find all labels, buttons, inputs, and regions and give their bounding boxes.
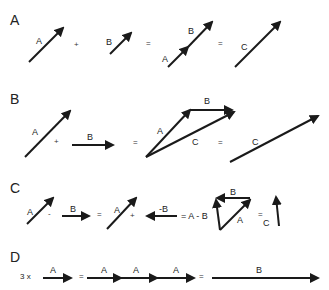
multiplier-label: 3 x — [20, 273, 31, 281]
label-b: B — [188, 27, 194, 36]
equals-operator: = — [258, 211, 263, 219]
label-a: A — [133, 266, 139, 275]
equals-operator: = — [199, 273, 204, 281]
label-b: B — [106, 38, 112, 47]
vector-a-arrow — [29, 28, 63, 62]
sum-a-arrow — [168, 47, 188, 67]
label-a: A — [237, 216, 243, 225]
equals-operator: = — [133, 139, 138, 147]
result-c-arrow — [230, 116, 318, 162]
label-a-minus-b: = A - B — [181, 212, 208, 221]
label-b: B — [256, 266, 262, 275]
equals-operator: = — [218, 139, 223, 147]
vector-b-arrow — [110, 33, 131, 54]
label-b: B — [230, 188, 236, 197]
label-a: A — [173, 266, 179, 275]
triangle-c-arrow — [216, 200, 220, 230]
section-title-b: B — [10, 92, 19, 106]
label-a: A — [50, 266, 56, 275]
plus-operator: + — [130, 212, 135, 220]
label-a: A — [36, 37, 42, 46]
section-title-d: D — [10, 250, 20, 264]
equals-operator: = — [79, 273, 84, 281]
label-a: A — [27, 208, 33, 217]
label-b: B — [70, 205, 76, 214]
label-a: A — [101, 266, 107, 275]
label-a: A — [114, 206, 120, 215]
label-c: C — [263, 219, 270, 228]
triangle-a-arrow — [220, 200, 250, 230]
result-c-arrow — [276, 197, 279, 226]
label-c: C — [192, 138, 199, 147]
plus-operator: + — [74, 41, 79, 49]
equals-operator: = — [218, 40, 223, 48]
equals-operator: = — [146, 40, 151, 48]
label-c: C — [241, 43, 248, 52]
label-c: C — [252, 138, 259, 147]
triangle-a-arrow — [146, 110, 190, 157]
label-b: B — [87, 133, 93, 142]
label-a: A — [157, 127, 163, 136]
label-a: A — [162, 55, 168, 64]
arrows-canvas — [0, 0, 329, 290]
label-a: A — [32, 128, 38, 137]
label-b: B — [204, 97, 210, 106]
label-negative-b: -B — [159, 205, 168, 214]
section-title-c: C — [10, 181, 20, 195]
minus-operator: - — [48, 210, 51, 218]
vector-addition-diagram: A B C D A + B = B A = C A + B = B A C = … — [0, 0, 329, 290]
equals-operator: = — [97, 211, 102, 219]
plus-operator: + — [54, 138, 59, 146]
section-title-a: A — [10, 13, 19, 27]
